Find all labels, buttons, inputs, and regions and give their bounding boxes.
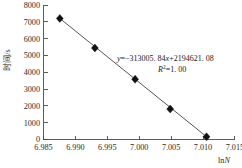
equation-intercept: +2194621. 08 <box>169 54 214 63</box>
y-axis-title: 时间/s <box>2 49 12 70</box>
y-tick-label: 2000 <box>24 102 40 111</box>
x-axis-title: lnN <box>218 156 230 165</box>
x-axis-tick-labels: 6.985 6.990 6.995 7.000 7.005 7.010 7.01… <box>34 143 242 152</box>
y-tick-label: 3000 <box>24 85 40 94</box>
x-tick-label: 6.985 <box>34 143 52 152</box>
y-tick-label: 5000 <box>24 51 40 60</box>
x-tick-label: 6.995 <box>98 143 116 152</box>
y-tick-label: 1000 <box>24 119 40 128</box>
regression-equation: y=−313005. 84x+2194621. 08 <box>116 54 214 63</box>
y-axis-tick-labels: 0 1000 2000 3000 4000 5000 6000 7000 800… <box>24 1 40 144</box>
y-tick-label: 4000 <box>24 68 40 77</box>
chart-container: 0 1000 2000 3000 4000 5000 6000 7000 800… <box>0 0 242 168</box>
y-tick-label: 7000 <box>24 18 40 27</box>
y-tick-label: 6000 <box>24 35 40 44</box>
x-tick-label: 6.990 <box>66 143 84 152</box>
equation-coef: =−313005. 84 <box>121 54 166 63</box>
x-tick-label: 7.015 <box>226 143 242 152</box>
x-tick-label: 7.000 <box>130 143 148 152</box>
r-squared-annotation: R2=1. 00 <box>157 64 186 74</box>
chart-plot: 0 1000 2000 3000 4000 5000 6000 7000 800… <box>0 0 242 168</box>
r-squared-value: =1. 00 <box>166 65 187 74</box>
x-tick-label: 7.005 <box>162 143 180 152</box>
x-tick-label: 7.010 <box>194 143 212 152</box>
x-axis-title-n: N <box>223 156 230 165</box>
y-tick-label: 8000 <box>24 1 40 10</box>
